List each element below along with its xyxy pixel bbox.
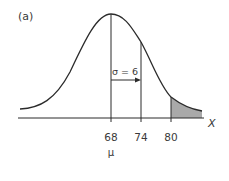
panel-label: (a) xyxy=(18,10,33,23)
axis-label-x: X xyxy=(207,117,216,130)
tick-label-68: 68 xyxy=(104,131,117,143)
mean-symbol: μ xyxy=(108,147,115,158)
normal-distribution-diagram: (a) σ = 6 X 68 74 80 μ xyxy=(0,0,229,181)
tick-label-74: 74 xyxy=(134,131,148,143)
sigma-label: σ = 6 xyxy=(112,66,138,77)
tick-label-80: 80 xyxy=(164,131,177,143)
arrowhead-icon xyxy=(135,78,141,83)
